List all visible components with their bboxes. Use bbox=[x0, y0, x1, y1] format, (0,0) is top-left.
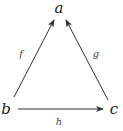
node-b-label: b bbox=[1, 100, 11, 118]
edge-f-label: f bbox=[18, 48, 25, 59]
edge-h-label: h bbox=[56, 116, 62, 127]
edge-g-arrow bbox=[66, 20, 108, 100]
triangle-diagram: a b c f g h bbox=[0, 0, 123, 131]
node-c-label: c bbox=[110, 100, 119, 118]
node-a-label: a bbox=[55, 0, 64, 17]
edge-g-label: g bbox=[93, 48, 99, 59]
